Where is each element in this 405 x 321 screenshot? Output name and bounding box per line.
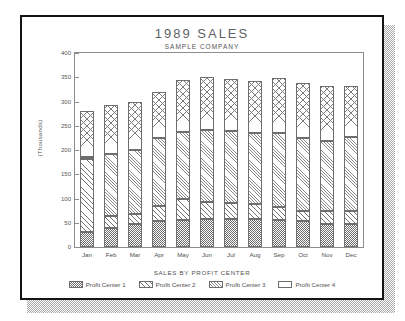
plot-area: 050100150200250300350400 JanFebMarAprMay… [74, 52, 364, 248]
stacked-bar[interactable] [344, 53, 359, 247]
bar-segment[interactable] [200, 219, 215, 247]
bar-segment[interactable] [224, 79, 239, 131]
legend-label: Profit Center 4 [295, 281, 335, 288]
bar-segment[interactable] [248, 133, 263, 204]
legend-item[interactable]: Profit Center 2 [139, 281, 196, 288]
x-tick-label: May [177, 251, 189, 258]
x-tick-label: Apr [154, 251, 164, 258]
bar-segment[interactable] [344, 211, 359, 224]
legend-swatch-icon [69, 281, 83, 288]
stacked-bar[interactable] [272, 53, 287, 247]
x-tick-label: Dec [345, 251, 356, 258]
bar-segment[interactable] [128, 224, 143, 247]
bar-segment[interactable] [320, 86, 335, 141]
y-tick-mark [75, 126, 79, 127]
bar-segment[interactable] [200, 202, 215, 219]
bar-segment[interactable] [224, 203, 239, 219]
bar-segment[interactable] [320, 211, 335, 224]
chart-legend: Profit Center 1Profit Center 2Profit Cen… [22, 281, 382, 288]
stacked-bar[interactable] [104, 53, 119, 247]
stacked-bar[interactable] [224, 53, 239, 247]
bar-segment[interactable] [104, 154, 119, 217]
bar-segment[interactable] [296, 221, 311, 247]
y-tick-label: 0 [68, 244, 71, 250]
bar-segment[interactable] [152, 206, 167, 221]
chart-title: 1989 SALES [22, 26, 382, 41]
y-tick-label: 250 [61, 123, 71, 129]
bar-segment[interactable] [176, 220, 191, 247]
bar-segment[interactable] [272, 133, 287, 207]
bar-segment[interactable] [152, 221, 167, 247]
bar-segment[interactable] [80, 232, 95, 247]
legend-swatch-icon [139, 281, 153, 288]
screenshot-root: 1989 SALES SAMPLE COMPANY (Thousands) 05… [0, 0, 405, 321]
x-tick-label: Nov [321, 251, 332, 258]
bar-segment[interactable] [272, 220, 287, 247]
y-tick-mark [75, 247, 79, 248]
bar-segment[interactable] [104, 228, 119, 247]
stacked-bar[interactable] [176, 53, 191, 247]
bar-segment[interactable] [152, 92, 167, 138]
bar-segment[interactable] [296, 138, 311, 211]
legend-item[interactable]: Profit Center 3 [209, 281, 266, 288]
legend-label: Profit Center 2 [156, 281, 196, 288]
bar-segment[interactable] [344, 137, 359, 211]
stacked-bar[interactable] [320, 53, 335, 247]
stacked-bar[interactable] [152, 53, 167, 247]
x-tick-label: Aug [249, 251, 260, 258]
y-tick-mark [75, 150, 79, 151]
bar-segment[interactable] [200, 77, 215, 130]
bar-segment[interactable] [344, 86, 359, 137]
stacked-bar[interactable] [80, 53, 95, 247]
bar-segment[interactable] [128, 150, 143, 214]
bar-segment[interactable] [152, 138, 167, 206]
bar-segment[interactable] [80, 157, 95, 159]
bar-segment[interactable] [344, 224, 359, 247]
x-tick-label: Mar [130, 251, 141, 258]
bar-segment[interactable] [320, 224, 335, 247]
bar-segment[interactable] [272, 78, 287, 132]
bar-segment[interactable] [80, 159, 95, 232]
bar-segment[interactable] [272, 207, 287, 220]
chart-page: 1989 SALES SAMPLE COMPANY (Thousands) 05… [20, 15, 384, 300]
stacked-bar[interactable] [296, 53, 311, 247]
bar-segment[interactable] [176, 132, 191, 199]
x-tick-label: Sep [273, 251, 284, 258]
bar-segment[interactable] [320, 141, 335, 211]
bar-segment[interactable] [200, 130, 215, 202]
bar-segment[interactable] [248, 204, 263, 219]
y-tick-label: 300 [61, 99, 71, 105]
y-tick-mark [75, 53, 79, 54]
bar-segment[interactable] [248, 219, 263, 247]
legend-label: Profit Center 1 [86, 281, 126, 288]
y-tick-mark [75, 102, 79, 103]
legend-swatch-icon [278, 281, 292, 288]
bar-segment[interactable] [104, 216, 119, 227]
bar-segment[interactable] [224, 131, 239, 203]
stacked-bar[interactable] [200, 53, 215, 247]
y-tick-label: 50 [64, 220, 71, 226]
bar-segment[interactable] [296, 83, 311, 138]
y-tick-mark [75, 77, 79, 78]
bar-segment[interactable] [224, 219, 239, 247]
stacked-bar[interactable] [128, 53, 143, 247]
x-tick-label: Feb [106, 251, 117, 258]
bar-segment[interactable] [104, 105, 119, 154]
bar-segment[interactable] [296, 211, 311, 222]
y-tick-label: 400 [61, 50, 71, 56]
y-tick-mark [75, 199, 79, 200]
bar-segment[interactable] [176, 199, 191, 219]
bar-segment[interactable] [248, 81, 263, 133]
bar-segment[interactable] [176, 80, 191, 132]
y-tick-label: 100 [61, 196, 71, 202]
x-tick-label: Oct [298, 251, 308, 258]
legend-item[interactable]: Profit Center 4 [278, 281, 335, 288]
legend-item[interactable]: Profit Center 1 [69, 281, 126, 288]
stacked-bar[interactable] [248, 53, 263, 247]
bar-segment[interactable] [80, 111, 95, 157]
x-tick-label: Jul [227, 251, 235, 258]
bar-segment[interactable] [128, 102, 143, 150]
x-axis-title: SALES BY PROFIT CENTER [22, 269, 382, 276]
y-tick-mark [75, 223, 79, 224]
bar-segment[interactable] [128, 214, 143, 225]
